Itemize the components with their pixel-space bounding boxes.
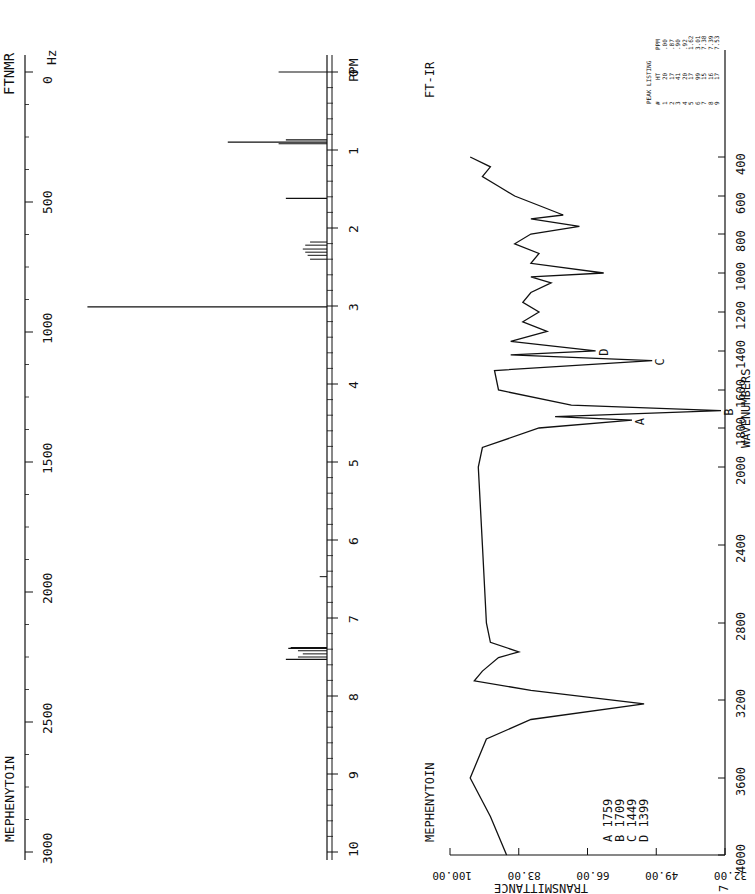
ir-panel: 4000360032002800240020001800160014001200… [423,50,753,894]
ir-y-tick-label: 100.00 [432,869,472,882]
ir-y-tick-label: 32.00 [714,869,747,882]
ir-x-tick-label: 600 [734,192,748,214]
nmr-panel: 050010001500200025003000 012345678910 FT… [1,35,720,864]
nmr-spectrum [87,72,327,659]
ir-x-tick-label: 2400 [734,534,748,563]
ir-xlabel: WAVENUMBERS [739,369,753,448]
ir-x-tick-label: 3600 [734,767,748,796]
ppm-tick-label: 10 [346,841,361,857]
nmr-peak-listing: PEAK LISTING #HTPPM120.00217.87341.90420… [645,35,720,105]
ppm-tick-label: 1 [346,147,361,155]
ir-peak-label: A [633,417,647,425]
nmr-hz-ticks: 050010001500200025003000 [25,72,55,864]
ppm-tick-label: 9 [346,771,361,779]
ir-peak-label: B [722,408,736,415]
peak-listing-header: HT [654,72,661,80]
hz-tick-label: 1000 [40,313,55,344]
ir-peak-table: A 1759B 1709C 1449D 1399 [601,799,651,842]
nmr-compound-name: MEPHENYTOIN [2,756,17,842]
ir-y-tick-label: 83.00 [508,869,541,882]
hz-tick-label: 500 [40,191,55,214]
ir-x-tick-label: 4000 [734,844,748,873]
ppm-tick-label: 3 [346,303,361,311]
ppm-tick-label: 5 [346,459,361,467]
ir-title: FT-IR [423,61,437,98]
ir-x-tick-label: 3200 [734,689,748,718]
hz-tick-label: 0 [40,76,55,84]
ir-x-tick-label: 2800 [734,612,748,641]
corner-mark: 7 [717,885,731,892]
ppm-tick-label: 8 [346,693,361,701]
peak-listing-cell: 17 [713,72,720,80]
ir-x-tick-label: 400 [734,153,748,175]
ir-spectrum [470,157,721,855]
ir-wavenumber-ticks: 4000360032002800240020001800160014001200… [718,153,748,873]
ir-x-tick-label: 1000 [734,262,748,291]
nmr-hz-unit: Hz [44,49,59,65]
ir-peak-label: D [597,349,611,356]
peak-listing-header: # [654,101,661,105]
ir-ylabel: TRANSMITTANCE [494,881,588,894]
ppm-tick-label: 6 [346,537,361,545]
nmr-ppm-unit: PPM [346,58,361,82]
ppm-tick-label: 4 [346,381,361,389]
ppm-tick-label: 2 [346,225,361,233]
peak-listing-header: PPM [654,39,661,50]
nmr-title: FTNMR [1,52,17,95]
ir-peak-label: C [653,358,667,365]
peak-listing-cell: 7.53 [713,35,720,50]
ir-y-tick-label: 49.00 [645,869,678,882]
ir-x-tick-label: 1200 [734,301,748,330]
ir-peak-annotations: ABCD [597,349,736,426]
hz-tick-label: 1500 [40,443,55,474]
hz-tick-label: 3000 [40,833,55,864]
ir-peak-table-row: D 1399 [637,799,651,842]
hz-tick-label: 2000 [40,573,55,604]
ir-y-tick-label: 66.00 [576,869,609,882]
ir-x-tick-label: 800 [734,230,748,252]
hz-tick-label: 2500 [40,703,55,734]
ir-transmittance-ticks: 32.0049.0066.0083.00100.00 [432,848,747,882]
ir-x-tick-label: 1400 [734,340,748,369]
peak-listing-title: PEAK LISTING [645,60,652,104]
ir-x-tick-label: 2000 [734,456,748,485]
ir-compound-name: MEPHENYTOIN [423,763,437,842]
peak-listing-cell: 9 [713,101,720,105]
ppm-tick-label: 7 [346,615,361,623]
spectra-figure: 050010001500200025003000 012345678910 FT… [0,0,755,894]
